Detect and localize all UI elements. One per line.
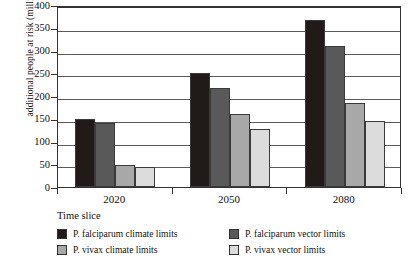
legend-label: P. vivax climate limits <box>73 245 157 255</box>
x-tick-label: 2020 <box>79 193 149 205</box>
plot-area <box>57 6 401 188</box>
y-tick-label: 100 <box>10 137 50 148</box>
legend-swatch <box>57 229 67 239</box>
legend-label: P. falciparum climate limits <box>73 229 177 239</box>
legend-entry: P. falciparum climate limits <box>57 229 229 239</box>
legend-entries: P. falciparum climate limitsP. falciparu… <box>57 226 407 258</box>
x-tick-label: 2050 <box>194 193 264 205</box>
legend-swatch <box>229 229 239 239</box>
chart-legend: Time slice P. falciparum climate limitsP… <box>57 210 407 258</box>
legend-label: P. falciparum vector limits <box>245 229 345 239</box>
bar <box>115 165 135 187</box>
y-tick-label: 250 <box>10 69 50 80</box>
x-tick-mark <box>286 188 287 194</box>
bar <box>75 119 95 187</box>
x-tick-mark <box>172 188 173 194</box>
bar <box>190 73 210 187</box>
bar <box>210 88 230 187</box>
y-tick-label: 350 <box>10 23 50 34</box>
y-tick-label: 400 <box>10 1 50 12</box>
bar <box>95 123 115 187</box>
bar <box>305 20 325 187</box>
y-tick-label: 300 <box>10 46 50 57</box>
legend-swatch <box>229 245 239 255</box>
y-tick-label: 50 <box>10 160 50 171</box>
gridline-350 <box>58 31 400 32</box>
y-tick-label: 150 <box>10 114 50 125</box>
x-tick-mark <box>401 188 402 194</box>
bar-chart-figure: additional people at risk (millions) 050… <box>0 0 414 269</box>
legend-title: Time slice <box>57 210 407 221</box>
legend-swatch <box>57 245 67 255</box>
bar <box>345 103 365 187</box>
y-tick-label: 0 <box>10 183 50 194</box>
legend-label: P. vivax vector limits <box>245 245 325 255</box>
x-tick-label: 2080 <box>309 193 379 205</box>
bar <box>230 114 250 187</box>
bar <box>250 129 270 187</box>
legend-entry: P. vivax vector limits <box>229 245 401 255</box>
gridline-300 <box>58 54 400 55</box>
legend-entry: P. falciparum vector limits <box>229 229 401 239</box>
gridline-250 <box>58 76 400 77</box>
y-tick-label: 200 <box>10 92 50 103</box>
bar <box>325 46 345 187</box>
bar <box>135 167 155 187</box>
bar <box>365 121 385 187</box>
x-tick-mark <box>57 188 58 194</box>
legend-entry: P. vivax climate limits <box>57 245 229 255</box>
plot-inner <box>58 8 400 187</box>
